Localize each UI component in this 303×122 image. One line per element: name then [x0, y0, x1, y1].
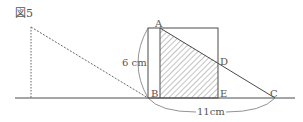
height-dimension: 6 cm [122, 57, 147, 68]
point-e-label: E [220, 88, 227, 99]
geometry-figure: 図5 A B C D E 6 cm 11cm [0, 0, 303, 122]
point-a-label: A [154, 18, 163, 29]
point-b-label: B [151, 88, 158, 99]
point-d-label: D [220, 56, 228, 67]
base-arc [148, 98, 196, 112]
base-arc-right [226, 98, 275, 112]
hatched-overlap-region [160, 28, 218, 98]
point-c-label: C [270, 88, 278, 99]
base-dimension: 11cm [197, 106, 225, 117]
figure-title: 図5 [15, 7, 33, 20]
